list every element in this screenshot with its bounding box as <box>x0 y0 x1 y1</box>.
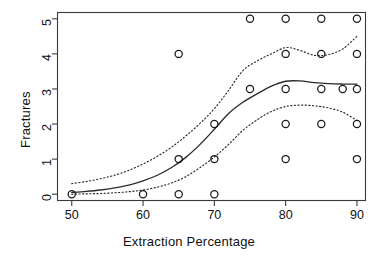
y-tick-label: 4 <box>40 54 54 61</box>
x-tick-label: 60 <box>136 208 150 222</box>
y-tick-label: 0 <box>40 194 54 201</box>
confidence-bands <box>72 36 357 194</box>
y-tick-label: 5 <box>40 19 54 26</box>
y-tick-label: 3 <box>40 89 54 96</box>
y-tick-label: 2 <box>40 124 54 131</box>
fractures-vs-extraction-scatter-chart: Extraction Percentage Fractures 50607080… <box>0 0 378 260</box>
axis-ticks <box>52 19 357 206</box>
y-axis-title: Fractures <box>18 91 33 148</box>
y-tick-label: 1 <box>40 159 54 166</box>
x-tick-label: 80 <box>279 208 293 222</box>
x-tick-label: 90 <box>350 208 364 222</box>
x-tick-label: 50 <box>65 208 79 222</box>
plot-canvas <box>0 0 378 260</box>
x-tick-label: 70 <box>207 208 221 222</box>
x-axis-title: Extraction Percentage <box>0 234 378 249</box>
